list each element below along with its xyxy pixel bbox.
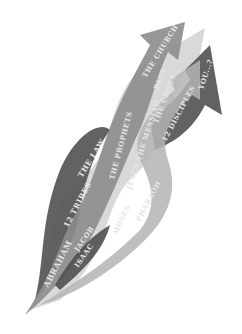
timeline-illustration: ABRAHAM ISAAC JACOB 12 TRIBES MOSES PHAR…	[0, 0, 242, 334]
label-moses: MOSES	[111, 203, 133, 236]
